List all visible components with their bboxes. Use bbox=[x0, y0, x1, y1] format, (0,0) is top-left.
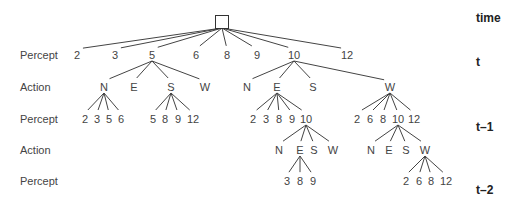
percept-node: 6 bbox=[367, 113, 373, 125]
row-label-percept-3: Percept bbox=[20, 175, 58, 187]
percept-node: 8 bbox=[297, 175, 303, 187]
percept-node: 12 bbox=[440, 175, 452, 187]
percept-node: 3 bbox=[284, 175, 290, 187]
percept-node: 9 bbox=[289, 113, 295, 125]
percept-node: 9 bbox=[175, 113, 181, 125]
tree-edge bbox=[301, 125, 306, 141]
percept-node: 2 bbox=[74, 49, 80, 61]
tree-edge bbox=[137, 61, 152, 78]
tree-edge bbox=[121, 28, 222, 48]
action-node: N bbox=[243, 81, 251, 93]
tree-edge bbox=[268, 93, 277, 110]
percept-node: 2 bbox=[250, 113, 256, 125]
action-node: S bbox=[167, 81, 174, 93]
percept-node: 12 bbox=[187, 113, 199, 125]
action-node: W bbox=[328, 144, 338, 156]
tree-edge bbox=[294, 61, 384, 80]
tree-edge bbox=[152, 61, 199, 79]
percept-node: 12 bbox=[408, 113, 420, 125]
action-node: S bbox=[309, 81, 316, 93]
time-label-t-minus-2: t–2 bbox=[476, 183, 493, 197]
tree-edge bbox=[158, 28, 222, 47]
percept-node: 5 bbox=[149, 49, 155, 61]
percept-node: 9 bbox=[254, 49, 260, 61]
root-node bbox=[215, 15, 229, 29]
percept-node: 10 bbox=[300, 113, 312, 125]
tree-edges bbox=[0, 0, 514, 205]
percept-node: 10 bbox=[392, 113, 404, 125]
row-label-percept-2: Percept bbox=[20, 113, 58, 125]
percept-node: 2 bbox=[354, 113, 360, 125]
action-node: E bbox=[385, 144, 392, 156]
percept-node: 5 bbox=[106, 113, 112, 125]
tree-edge bbox=[253, 61, 294, 79]
percept-node: 8 bbox=[428, 175, 434, 187]
percept-node: 8 bbox=[162, 113, 168, 125]
action-node: N bbox=[275, 144, 283, 156]
percept-node: 3 bbox=[112, 49, 118, 61]
time-label-t-minus-1: t–1 bbox=[476, 120, 493, 134]
action-node: W bbox=[385, 81, 395, 93]
action-node: S bbox=[402, 144, 409, 156]
percept-node: 2 bbox=[82, 113, 88, 125]
action-node: N bbox=[100, 81, 108, 93]
percept-node: 3 bbox=[263, 113, 269, 125]
action-node: W bbox=[200, 81, 210, 93]
percept-node: 8 bbox=[276, 113, 282, 125]
action-node: E bbox=[130, 81, 137, 93]
percept-node: 3 bbox=[94, 113, 100, 125]
percept-node: 5 bbox=[150, 113, 156, 125]
tree-edge bbox=[289, 156, 300, 172]
time-axis-title: time bbox=[476, 11, 501, 25]
tree-edge bbox=[300, 156, 311, 172]
tree-edge bbox=[277, 93, 302, 110]
tree-edge bbox=[88, 93, 104, 110]
action-node: E bbox=[273, 81, 280, 93]
row-label-percept-1: Percept bbox=[20, 49, 58, 61]
tree-edge bbox=[257, 93, 277, 110]
percept-node: 8 bbox=[380, 113, 386, 125]
action-node: W bbox=[420, 144, 430, 156]
row-label-action-2: Action bbox=[20, 144, 51, 156]
action-node: N bbox=[367, 144, 375, 156]
row-label-action-1: Action bbox=[20, 81, 51, 93]
search-tree-diagram: Percept Action Percept Action Percept ti… bbox=[0, 0, 514, 205]
percept-node: 2 bbox=[403, 175, 409, 187]
percept-node: 6 bbox=[193, 49, 199, 61]
percept-node: 12 bbox=[341, 49, 353, 61]
percept-node: 6 bbox=[118, 113, 124, 125]
action-node: S bbox=[310, 144, 317, 156]
action-node: E bbox=[296, 144, 303, 156]
percept-node: 9 bbox=[310, 175, 316, 187]
time-label-t: t bbox=[476, 55, 480, 69]
percept-node: 8 bbox=[224, 49, 230, 61]
percept-node: 6 bbox=[416, 175, 422, 187]
tree-edge bbox=[283, 125, 306, 141]
tree-edge bbox=[110, 61, 152, 79]
percept-node: 10 bbox=[288, 49, 300, 61]
